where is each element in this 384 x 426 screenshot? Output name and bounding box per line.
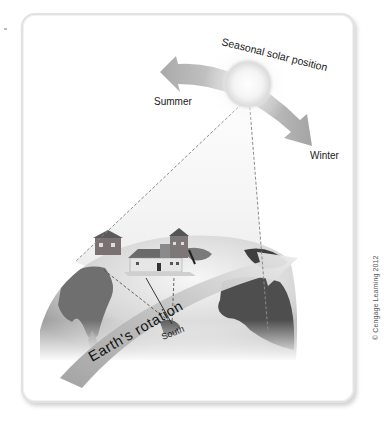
diagram-canvas: Seasonal solar position Summer Winter Ea… bbox=[0, 0, 384, 426]
summer-label: Summer bbox=[154, 96, 192, 107]
winter-label: Winter bbox=[310, 150, 340, 161]
copyright-credit: © Cengage Learning 2012 bbox=[372, 255, 379, 340]
